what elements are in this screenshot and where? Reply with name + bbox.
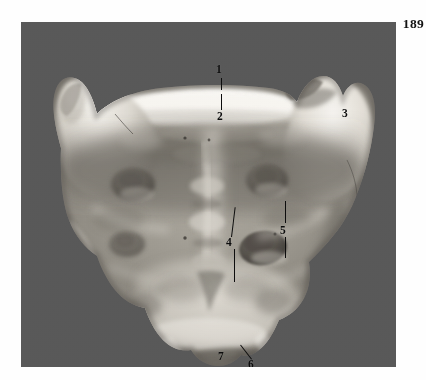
label-3: 3 xyxy=(342,108,348,120)
label-1: 1 xyxy=(216,64,222,76)
leader-line-2 xyxy=(221,94,222,110)
label-5: 5 xyxy=(280,225,286,237)
label-2: 2 xyxy=(217,111,223,123)
label-7: 7 xyxy=(218,351,224,363)
sacrum-bone-photograph xyxy=(21,22,396,367)
label-6: 6 xyxy=(248,359,254,367)
leader-line-1 xyxy=(221,78,222,90)
leader-line-5-upper xyxy=(285,201,286,223)
leader-line-4-lower xyxy=(234,249,235,282)
page-number: 189 xyxy=(403,17,424,31)
book-page: 189 xyxy=(0,0,426,380)
photo-plate: 1 2 3 4 5 6 7 xyxy=(21,22,396,367)
leader-line-5-lower xyxy=(285,237,286,258)
label-4: 4 xyxy=(226,237,232,249)
